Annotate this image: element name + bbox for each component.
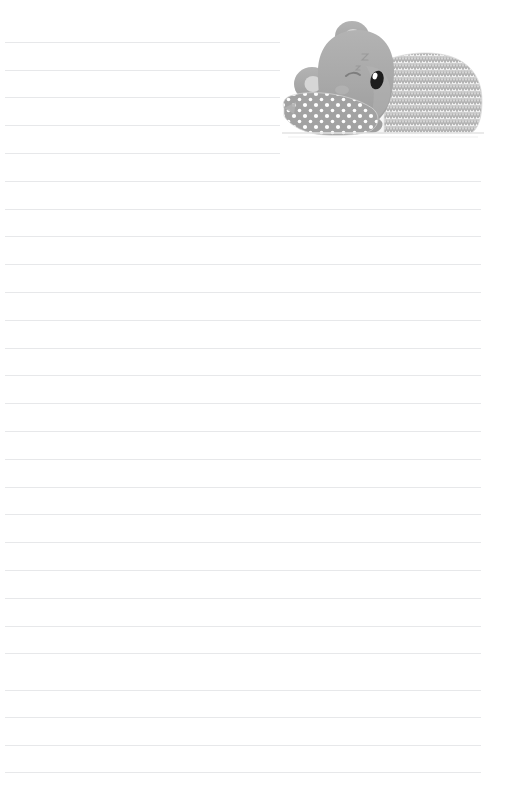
notepaper-page bbox=[0, 0, 518, 807]
ruled-line bbox=[5, 264, 481, 265]
ruled-line bbox=[5, 598, 481, 599]
ruled-line bbox=[5, 320, 481, 321]
ruled-line bbox=[5, 153, 280, 154]
ruled-line bbox=[5, 292, 481, 293]
koala-artwork bbox=[280, 14, 491, 144]
ruled-line bbox=[5, 42, 280, 43]
ruled-line bbox=[5, 209, 481, 210]
ruled-line bbox=[5, 236, 481, 237]
ruled-line bbox=[5, 97, 280, 98]
ruled-line bbox=[5, 403, 481, 404]
ruled-line bbox=[5, 70, 280, 71]
ruled-line bbox=[5, 626, 481, 627]
ruled-line bbox=[5, 431, 481, 432]
ruled-line bbox=[5, 745, 481, 746]
ruled-line bbox=[5, 375, 481, 376]
ruled-line bbox=[5, 653, 481, 654]
ruled-line bbox=[5, 717, 481, 718]
ruled-line bbox=[5, 181, 481, 182]
koala-cheek bbox=[335, 86, 349, 95]
ruled-line bbox=[5, 772, 481, 773]
ruled-line bbox=[5, 570, 481, 571]
ruled-line bbox=[5, 514, 481, 515]
sleeping-koala-illustration bbox=[280, 14, 491, 144]
ruled-line bbox=[5, 542, 481, 543]
ruled-line bbox=[5, 125, 280, 126]
ruled-line bbox=[5, 690, 481, 691]
ruled-line bbox=[5, 348, 481, 349]
ruled-line bbox=[5, 487, 481, 488]
ruled-line bbox=[5, 459, 481, 460]
